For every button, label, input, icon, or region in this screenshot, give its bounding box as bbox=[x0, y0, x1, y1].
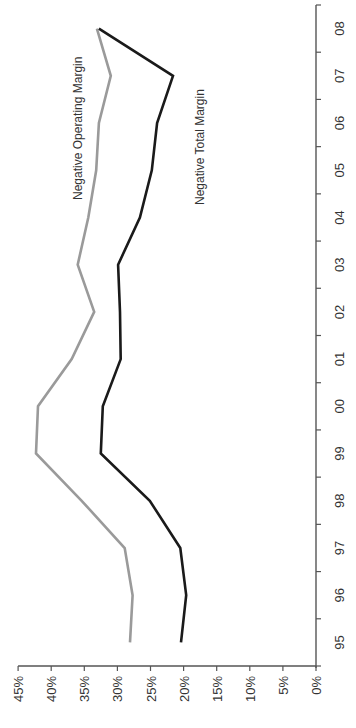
value-tick-label: 15% bbox=[210, 676, 225, 702]
category-tick-label: 99 bbox=[332, 446, 347, 460]
category-tick-label: 97 bbox=[332, 541, 347, 555]
value-tick-label: 25% bbox=[144, 676, 159, 702]
category-tick-label: 95 bbox=[332, 635, 347, 649]
value-tick-label: 10% bbox=[243, 676, 258, 702]
category-tick-label: 01 bbox=[332, 352, 347, 366]
category-tick-label: 00 bbox=[332, 399, 347, 413]
value-tick-label: 45% bbox=[11, 676, 26, 702]
category-tick-label: 96 bbox=[332, 588, 347, 602]
category-tick-label: 02 bbox=[332, 305, 347, 319]
margin-line-chart: 0%5%10%15%20%25%30%35%40%45% 95969798990… bbox=[0, 0, 356, 728]
category-tick-label: 98 bbox=[332, 494, 347, 508]
operating-margin-label: Negative Operating Margin bbox=[71, 57, 85, 200]
category-tick-label: 05 bbox=[332, 163, 347, 177]
value-tick-label: 0% bbox=[309, 676, 324, 695]
total-margin-line bbox=[99, 29, 186, 643]
category-tick-label: 04 bbox=[332, 210, 347, 224]
total-margin-label: Negative Total Margin bbox=[193, 89, 207, 205]
value-axis: 0%5%10%15%20%25%30%35%40%45% bbox=[11, 666, 324, 702]
category-tick-label: 03 bbox=[332, 257, 347, 271]
value-tick-label: 5% bbox=[276, 676, 291, 695]
category-tick-label: 08 bbox=[332, 21, 347, 35]
value-tick-label: 35% bbox=[77, 676, 92, 702]
series-layer bbox=[36, 29, 186, 643]
category-axis: 9596979899000102030405060708 bbox=[316, 5, 347, 668]
value-tick-label: 20% bbox=[177, 676, 192, 702]
category-tick-label: 06 bbox=[332, 116, 347, 130]
value-tick-label: 30% bbox=[110, 676, 125, 702]
category-tick-label: 07 bbox=[332, 69, 347, 83]
value-tick-label: 40% bbox=[44, 676, 59, 702]
